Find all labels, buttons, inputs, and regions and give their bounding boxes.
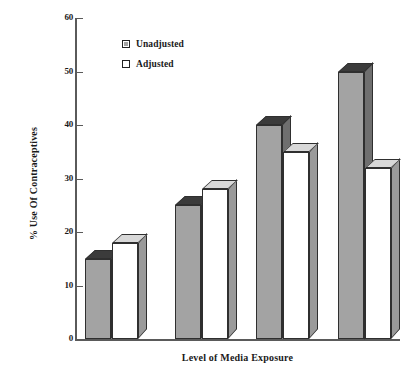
legend-swatch-unadjusted-icon: [122, 40, 130, 48]
y-axis-tick: [77, 72, 83, 73]
bar-front-face: [175, 205, 201, 339]
legend-swatch-adjusted-icon: [122, 60, 130, 68]
bar-unadjusted-group-2: [175, 205, 201, 339]
bar-front-face: [85, 259, 111, 339]
y-axis-tick-label: 30: [33, 174, 73, 183]
y-axis-tick-label: 20: [33, 227, 73, 236]
bar-adjusted-group-2: [202, 189, 228, 339]
y-axis-tick-label: 40: [33, 120, 73, 129]
y-axis-tick: [77, 286, 83, 287]
chart-legend: Unadjusted Adjusted: [122, 38, 184, 78]
y-axis-tick: [77, 232, 83, 233]
legend-label-unadjusted: Unadjusted: [136, 39, 184, 49]
bar-side-face: [228, 179, 237, 339]
bar-side-face: [309, 142, 318, 339]
y-axis-tick: [77, 179, 83, 180]
bar-front-face: [283, 152, 309, 339]
y-axis-title: % Use Of Contraceptives: [28, 84, 39, 284]
bar-side-face: [391, 158, 400, 339]
bar-adjusted-group-1: [112, 243, 138, 339]
bar-unadjusted-group-4: [338, 72, 364, 340]
bar-unadjusted-group-3: [256, 125, 282, 339]
bar-front-face: [338, 72, 364, 340]
legend-label-adjusted: Adjusted: [136, 59, 174, 69]
y-axis-tick-label: 60: [33, 13, 73, 22]
bar-front-face: [112, 243, 138, 339]
bar-adjusted-group-4: [365, 168, 391, 339]
bar-side-face: [138, 233, 147, 339]
legend-item-unadjusted: Unadjusted: [122, 38, 184, 49]
y-axis-tick-label: 10: [33, 281, 73, 290]
x-axis-line: [75, 339, 400, 341]
bar-chart-figure: 0102030405060 Unadjusted Adjusted % Use …: [0, 0, 415, 381]
bar-front-face: [365, 168, 391, 339]
y-axis-tick-label: 0: [33, 334, 73, 343]
bar-adjusted-group-3: [283, 152, 309, 339]
x-axis-title: Level of Media Exposure: [75, 352, 400, 363]
legend-item-adjusted: Adjusted: [122, 58, 184, 69]
bar-front-face: [202, 189, 228, 339]
y-axis-tick: [77, 18, 83, 19]
bar-unadjusted-group-1: [85, 259, 111, 339]
bar-front-face: [256, 125, 282, 339]
y-axis-tick-label: 50: [33, 67, 73, 76]
y-axis-tick: [77, 125, 83, 126]
